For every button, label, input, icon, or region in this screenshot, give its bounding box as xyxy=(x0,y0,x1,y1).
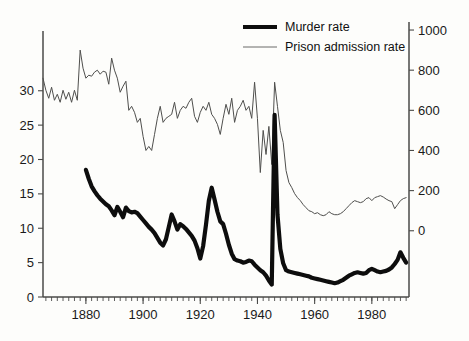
x-axis-tick-label: 1880 xyxy=(71,307,100,322)
y-axis-right-tick-label: 400 xyxy=(418,143,440,158)
x-axis-tick-label: 1960 xyxy=(300,307,329,322)
y-axis-left-tick-label: 10 xyxy=(20,221,34,236)
chart-figure: 051015202530 02004006008001000 188019001… xyxy=(0,0,469,341)
chart-plot-area: 051015202530 02004006008001000 188019001… xyxy=(0,0,469,341)
y-axis-right-tick-label: 800 xyxy=(418,63,440,78)
y-axis-right-tick-label: 200 xyxy=(418,183,440,198)
x-axis-tick-label: 1900 xyxy=(129,307,158,322)
y-axis-left-tick-label: 15 xyxy=(20,186,34,201)
y-axis-right-tick-label: 1000 xyxy=(418,23,447,38)
y-axis-left-tick-label: 5 xyxy=(27,255,34,270)
y-axis-left-tick-label: 25 xyxy=(20,118,34,133)
y-axis-right-tick-label: 0 xyxy=(418,223,425,238)
y-axis-left-tick-label: 0 xyxy=(27,290,34,305)
y-axis-left-tick-label: 30 xyxy=(20,83,34,98)
y-axis-right-tick-label: 600 xyxy=(418,103,440,118)
legend-label-murder-rate: Murder rate xyxy=(285,20,350,34)
x-axis-tick-label: 1920 xyxy=(186,307,215,322)
x-axis-tick-label: 1980 xyxy=(357,307,386,322)
x-axis-tick-label: 1940 xyxy=(243,307,272,322)
legend-label-prison-admission-rate: Prison admission rate xyxy=(285,40,405,54)
y-axis-left-tick-label: 20 xyxy=(20,152,34,167)
